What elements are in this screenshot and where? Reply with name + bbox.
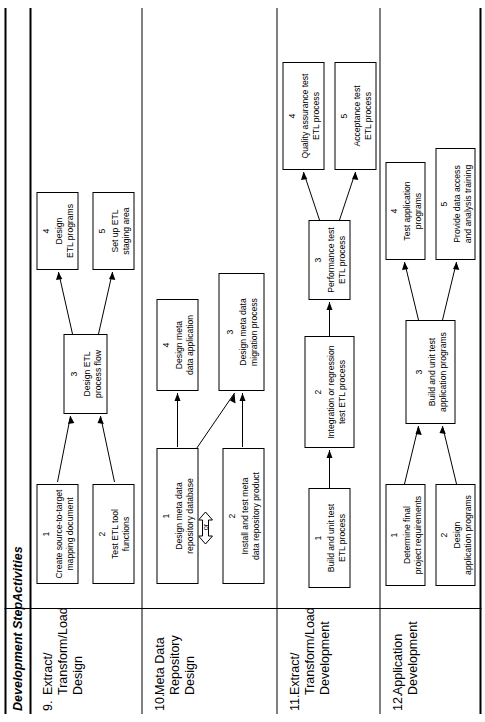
row-12-node-5-line-2: and analysis training: [462, 165, 473, 243]
row-10-node-4-number: 4: [160, 343, 171, 348]
row-12-node-2[interactable]: 2 Design application programs: [435, 484, 475, 586]
row-12-node-2-number: 2: [438, 533, 449, 538]
row-12-node-3-line-1: Build and unit test: [426, 338, 437, 406]
row-12-node-5-number: 5: [438, 202, 449, 207]
row-12-node-3[interactable]: 3 Build and unit test application progra…: [405, 320, 455, 424]
row-10-label: 10.Meta DataRepositoryDesign: [152, 611, 197, 711]
row-11-node-2-line-2: test ETL process: [336, 360, 347, 424]
row-10-node-3-number: 3: [224, 330, 235, 335]
row-12-node-4-line-1: Test application: [401, 181, 412, 240]
row-12-label: 12.ApplicationDevelopment: [390, 611, 420, 711]
row-10-node-3-line-1: Design meta data: [237, 298, 248, 365]
row-9-node-1-line-1: Create source-to-target: [53, 490, 64, 579]
row-9-node-5[interactable]: 5 Set up ETL staging area: [92, 192, 134, 270]
row-12-node-1-line-2: project requirements: [412, 496, 423, 574]
row-9-node-2-line-2: functions: [120, 517, 131, 551]
row-9-number: 9.: [40, 695, 55, 711]
row-12-node-5[interactable]: 5 Provide data access and analysis train…: [435, 148, 475, 260]
row-11-label-line-1: Extract/: [287, 653, 301, 695]
row-9-node-1-number: 1: [40, 532, 51, 537]
row-9-node-1-line-2: mapping document: [64, 497, 75, 570]
row-9-node-4-line-2: ETL programs: [64, 204, 75, 258]
row-10: 10.Meta DataRepositoryDesign: [142, 8, 276, 714]
row-11-node-5-number: 5: [338, 114, 349, 119]
row-12-node-2-line-1: Design: [451, 522, 462, 549]
row-11-label: 11.Extract/Transform/LoadDevelopment: [287, 611, 332, 711]
row-12-activities: 1 Determine final project requirements 2…: [380, 12, 479, 602]
row-10-node-2[interactable]: 2 Install and test meta data repository …: [222, 448, 264, 584]
row-12-label-line-2: Development: [405, 621, 419, 695]
row-11-node-5-line-2: ETL process: [362, 92, 373, 140]
row-10-node-4-line-1: Design meta: [173, 321, 184, 369]
row-10-or-label: or: [200, 516, 209, 538]
row-11-node-3[interactable]: 3 Performance test ETL process: [308, 220, 350, 300]
row-11-node-4-number: 4: [286, 114, 297, 119]
row-10-node-4-line-2: data application: [184, 315, 195, 375]
header-activities: Activities: [7, 546, 27, 602]
row-11-node-3-line-2: ETL process: [336, 236, 347, 284]
row-12-node-3-line-2: application programs: [437, 332, 448, 412]
row-10-node-2-line-2: data repository product: [250, 472, 261, 560]
row-10-label-line-3: Design: [182, 656, 196, 695]
row-11-node-1-line-1: Build and unit test: [325, 504, 336, 572]
row-10-label-line-2: Repository: [167, 635, 181, 695]
row-12-node-1-line-1: Determine final: [401, 506, 412, 564]
row-10-label-line-1: Meta Data: [152, 637, 166, 695]
row-12-node-5-line-1: Provide data access: [451, 165, 462, 242]
row-9-node-2[interactable]: 2 Test ETL tool functions: [92, 484, 134, 584]
row-9-node-3-line-1: Design ETL: [81, 352, 92, 397]
row-9-node-2-line-1: Test ETL tool: [109, 509, 120, 559]
row-12-node-1-number: 1: [388, 533, 399, 538]
row-11-node-5[interactable]: 5 Acceptance test ETL process: [334, 62, 376, 170]
row-11-node-3-number: 3: [312, 258, 323, 263]
row-12-node-3-number: 3: [413, 370, 424, 375]
row-10-node-1-number: 1: [160, 514, 171, 519]
row-11-node-2-number: 2: [312, 390, 323, 395]
row-10-node-1[interactable]: 1 Design meta data repository database: [156, 448, 198, 584]
header-development-step: Development Step: [7, 602, 27, 711]
row-11-label-line-2: Transform/Load: [302, 607, 316, 695]
row-10-node-2-number: 2: [226, 514, 237, 519]
row-9-node-3-number: 3: [68, 372, 79, 377]
row-11-node-2-line-1: Integration or regression: [325, 345, 336, 438]
row-10-node-3-line-2: migration process: [248, 298, 259, 366]
row-11-node-4-line-1: Quality assurance test: [299, 73, 310, 158]
row-10-node-2-line-1: Install and test meta: [239, 478, 250, 555]
row-11-label-line-3: Development: [317, 621, 331, 695]
row-9-node-1[interactable]: 1 Create source-to-target mapping docume…: [36, 484, 78, 584]
row-9-label: 9.Extract/Transform/LoadDesign: [40, 611, 85, 711]
row-11-node-4[interactable]: 4 Quality assurance test ETL process: [282, 62, 324, 170]
row-11-number: 11.: [287, 695, 302, 711]
row-9-node-3[interactable]: 3 Design ETL process flow: [63, 334, 107, 414]
row-10-node-1-line-2: repository database: [184, 478, 195, 553]
row-11: 11.Extract/Transform/LoadDevelopment: [277, 8, 379, 714]
row-12-node-1[interactable]: 1 Determine final project requirements: [385, 484, 425, 586]
row-9-label-line-1: Extract/: [40, 653, 54, 695]
row-11-node-2[interactable]: 2 Integration or regression test ETL pro…: [304, 336, 354, 448]
row-9-node-5-line-2: staging area: [120, 207, 131, 254]
table-frame: Development Step Activities 9.Extract/Tr…: [4, 8, 481, 714]
page-canvas: Development Step Activities 9.Extract/Tr…: [0, 0, 485, 722]
row-9-node-4-number: 4: [40, 229, 51, 234]
row-9-node-5-line-1: Set up ETL: [109, 210, 120, 253]
row-10-node-4[interactable]: 4 Design meta data application: [156, 299, 198, 391]
row-11-node-1-line-2: ETL process: [336, 514, 347, 562]
row-11-node-5-line-1: Acceptance test: [351, 85, 362, 146]
row-11-node-1[interactable]: 1 Build and unit test ETL process: [308, 488, 350, 588]
row-10-activities: or 1 Design meta data repository databas…: [142, 12, 276, 602]
row-10-node-1-line-1: Design meta data: [173, 482, 184, 549]
row-11-node-1-number: 1: [312, 536, 323, 541]
row-9-node-4-line-1: Design: [53, 218, 64, 245]
row-9-node-2-number: 2: [96, 532, 107, 537]
row-9-node-3-line-2: process flow: [92, 350, 103, 398]
row-10-node-3[interactable]: 3 Design meta data migration process: [218, 273, 264, 391]
row-11-activities: 1 Build and unit test ETL process 2 Inte…: [277, 12, 379, 602]
row-12-label-line-1: Application: [390, 634, 404, 695]
row-9-node-4[interactable]: 4 Design ETL programs: [36, 192, 78, 270]
row-9-label-line-2: Transform/Load: [55, 607, 69, 695]
row-9-node-5-number: 5: [96, 229, 107, 234]
row-9-label-line-3: Design: [70, 656, 84, 695]
row-12-number: 12.: [390, 695, 405, 711]
row-11-node-3-line-1: Performance test: [325, 227, 336, 292]
row-12-node-4[interactable]: 4 Test application programs: [385, 162, 425, 260]
